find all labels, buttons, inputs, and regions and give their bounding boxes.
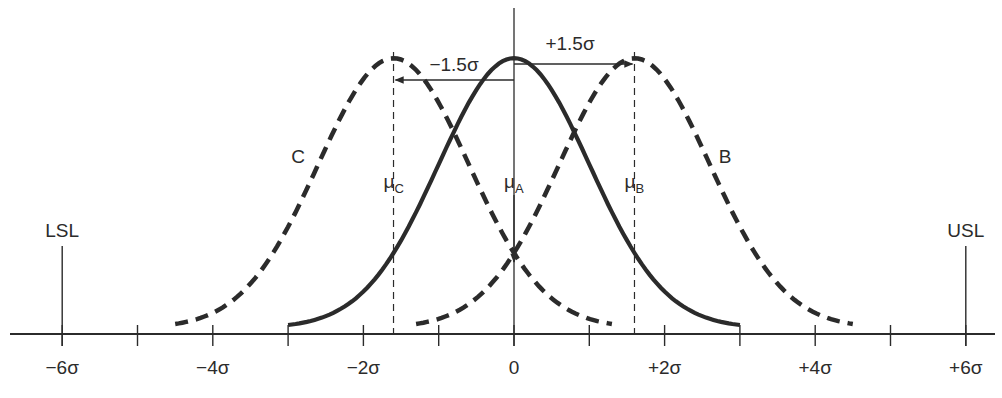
curve-label-c: C <box>291 146 305 167</box>
x-tick-label: +4σ <box>799 357 833 378</box>
curve-label-b: B <box>719 146 732 167</box>
chart-canvas: −6σ−4σ−2σ0+2σ+4σ+6σ LSLUSL −1.5σ+1.5σ μA… <box>0 0 1002 398</box>
shift-label-left: −1.5σ <box>429 54 479 75</box>
x-tick-label: −4σ <box>196 357 230 378</box>
x-tick-label: 0 <box>509 357 520 378</box>
x-tick-label: +2σ <box>648 357 682 378</box>
x-axis-tick-labels: −6σ−4σ−2σ0+2σ+4σ+6σ <box>46 357 983 378</box>
mean-label-sub: B <box>635 181 644 196</box>
spec-limit-label-lsl: LSL <box>45 220 79 241</box>
curve-labels: μAμBμCBC <box>291 146 731 196</box>
x-tick-label: −2σ <box>347 357 381 378</box>
mean-label-sub: A <box>515 181 524 196</box>
spec-limit-label-usl: USL <box>947 220 984 241</box>
mean-label-sub: C <box>394 181 403 196</box>
mean-label-c: μC <box>384 171 404 196</box>
x-tick-label: −6σ <box>46 357 80 378</box>
x-tick-label: +6σ <box>949 357 983 378</box>
spec-limits: LSLUSL <box>45 220 984 346</box>
mean-label-b: μB <box>624 171 644 196</box>
shift-label-right: +1.5σ <box>545 33 595 54</box>
sigma-shift-diagram: −6σ−4σ−2σ0+2σ+4σ+6σ LSLUSL −1.5σ+1.5σ μA… <box>0 0 1002 398</box>
mean-label-a: μA <box>504 171 524 196</box>
